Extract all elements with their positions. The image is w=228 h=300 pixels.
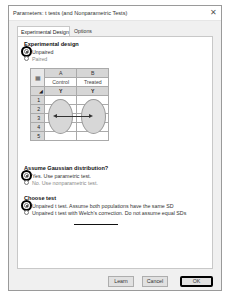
column-letter: A bbox=[45, 69, 77, 78]
parameters-dialog: Parameters: t tests (and Nonparametric T… bbox=[8, 5, 222, 291]
gaussian-heading: Assume Gaussian distribution? bbox=[24, 165, 108, 171]
row-number: 1 bbox=[31, 96, 45, 105]
learn-button[interactable]: Learn bbox=[108, 276, 134, 287]
close-icon[interactable]: ✕ bbox=[210, 8, 217, 18]
ok-button[interactable]: OK bbox=[180, 276, 213, 287]
y-header: Y bbox=[77, 87, 109, 96]
row-number: 5 bbox=[31, 132, 45, 141]
radio-button[interactable] bbox=[24, 56, 29, 61]
y-header: Y bbox=[45, 87, 77, 96]
table-icon: ▦ bbox=[31, 69, 45, 87]
title-bar: Parameters: t tests (and Nonparametric T… bbox=[9, 6, 221, 21]
column-title: Control bbox=[45, 78, 77, 87]
dialog-title: Parameters: t tests (and Nonparametric T… bbox=[13, 10, 127, 16]
tab-options[interactable]: Options bbox=[71, 26, 95, 36]
welch-underline bbox=[74, 224, 118, 225]
radio-button[interactable] bbox=[24, 210, 29, 215]
column-title: Treated bbox=[77, 78, 109, 87]
tab-panel: Experimental design Unpaired Paired ▦ A … bbox=[17, 36, 213, 269]
row-number: 3 bbox=[31, 114, 45, 123]
compare-arrow-icon bbox=[55, 116, 91, 117]
row-number: 2 bbox=[31, 105, 45, 114]
column-letter: B bbox=[77, 69, 109, 78]
experimental-design-heading: Experimental design bbox=[24, 41, 79, 47]
row-header-corner: ◢ bbox=[31, 87, 45, 96]
radio-button[interactable] bbox=[24, 180, 29, 185]
row-number: 4 bbox=[31, 123, 45, 132]
cancel-button[interactable]: Cancel bbox=[142, 276, 168, 287]
